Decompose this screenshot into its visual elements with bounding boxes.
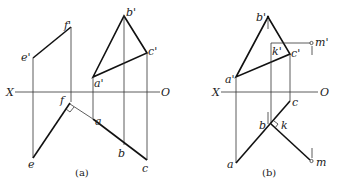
label-m: m bbox=[316, 156, 326, 169]
label-f: f bbox=[59, 94, 66, 107]
label-a-prime-b: a' bbox=[225, 73, 235, 86]
label-m-prime: m' bbox=[315, 36, 328, 49]
label-c-prime: c' bbox=[148, 45, 157, 58]
axis-label-x-a: X bbox=[5, 86, 15, 99]
panel-b: X O b' a' c' k' m' a b c k m (b) bbox=[211, 11, 329, 178]
projection-diagram: X O e' f' e f a' b' c' a b c (a) X O bbox=[0, 0, 337, 187]
label-a: a bbox=[95, 115, 102, 128]
label-k: k bbox=[281, 119, 288, 132]
label-k-prime: k' bbox=[272, 45, 282, 58]
label-c: c bbox=[142, 162, 148, 175]
panel-a: X O e' f' e f a' b' c' a b c (a) bbox=[5, 6, 170, 178]
label-b: b bbox=[118, 147, 125, 160]
caption-b: (b) bbox=[262, 167, 276, 178]
line-f-a bbox=[70, 104, 93, 119]
label-b-prime-b: b' bbox=[256, 11, 266, 24]
label-c-b: c bbox=[292, 96, 298, 109]
label-f-prime: f' bbox=[63, 19, 71, 32]
label-a-b: a bbox=[227, 158, 234, 171]
axis-label-o-a: O bbox=[161, 86, 170, 99]
label-a-prime: a' bbox=[94, 77, 104, 90]
label-c-prime-b: c' bbox=[291, 47, 300, 60]
label-e-prime: e' bbox=[21, 51, 31, 64]
triangle-front-view-a bbox=[93, 16, 147, 77]
label-e: e bbox=[28, 158, 35, 171]
axis-label-o-b: O bbox=[320, 86, 329, 99]
triangle-front-view-b bbox=[236, 17, 290, 77]
line-e-f bbox=[33, 103, 70, 158]
label-b-b: b bbox=[259, 119, 266, 132]
caption-a: (a) bbox=[75, 167, 89, 178]
axis-label-x-b: X bbox=[211, 86, 221, 99]
point-m bbox=[310, 159, 313, 162]
label-b-prime: b' bbox=[126, 6, 136, 19]
line-k-m-top bbox=[271, 124, 310, 160]
point-b-prime bbox=[267, 16, 269, 18]
point-m-prime bbox=[310, 41, 313, 44]
line-a-c-top bbox=[236, 101, 290, 163]
